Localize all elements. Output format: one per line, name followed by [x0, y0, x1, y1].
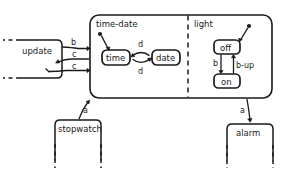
transition-label-a-right: a: [240, 106, 245, 115]
state-on-label: on: [221, 77, 232, 87]
transition-time-to-date: [133, 59, 150, 62]
initial-state-dot-time-date: [98, 32, 102, 36]
state-alarm-label: alarm: [236, 128, 260, 138]
transition-label-c-lower: c: [72, 62, 76, 71]
initial-state-dot-light: [247, 24, 251, 28]
statechart-svg: time-date light time date d d off on: [0, 0, 287, 172]
transition-update-to-composite-c2: [49, 71, 88, 72]
transition-composite-to-alarm-a: [247, 99, 250, 120]
transition-on-to-off-arrowhead: [231, 55, 235, 58]
initial-transition-to-time: [101, 36, 108, 49]
statechart-diagram-canvas: time-date light time date d d off on: [0, 0, 287, 172]
state-time-label: time: [106, 53, 125, 63]
region-label-time-date: time-date: [96, 19, 137, 29]
transition-c2-tick: [46, 69, 50, 73]
transition-label-c-upper: c: [72, 50, 76, 59]
initial-transition-to-off: [241, 28, 248, 40]
transition-label-a-left: a: [83, 106, 88, 115]
transition-composite-to-alarm-a-arrowhead: [248, 119, 252, 123]
transition-composite-to-update-c1-arrowhead: [56, 60, 60, 64]
transition-label-b-light: b: [213, 59, 218, 68]
transition-label-d-lower: d: [138, 67, 143, 76]
region-label-light: light: [194, 19, 214, 29]
state-stopwatch-label: stopwatch: [58, 124, 102, 134]
state-date-label: date: [156, 53, 175, 63]
transition-date-to-time: [133, 52, 150, 55]
transition-update-to-composite-b: [62, 47, 88, 49]
transition-label-b-update: b: [71, 38, 76, 47]
transition-label-d-upper: d: [138, 40, 143, 49]
transition-label-b-up: b-up: [236, 61, 254, 70]
state-off-label: off: [220, 43, 232, 53]
state-update-label: update: [22, 46, 52, 56]
